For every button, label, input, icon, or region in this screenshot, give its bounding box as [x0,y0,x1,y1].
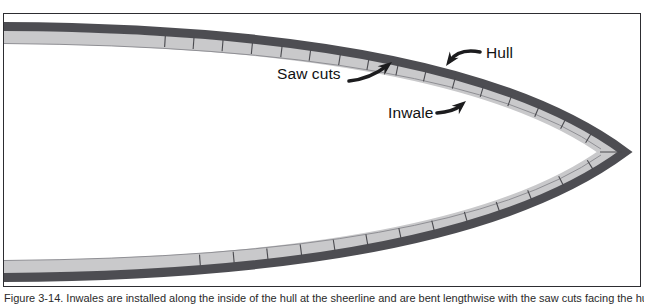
saw-cuts-label: Saw cuts [277,66,341,82]
inwale-callout-arrow-head [452,97,470,114]
figure-caption: Figure 3-14. Inwales are installed along… [4,292,644,305]
hull-label: Hull [486,45,513,61]
boat-bow-diagram [4,14,640,286]
inwale-label: Inwale [388,105,433,121]
diagram-frame [3,13,641,287]
saw-cut-tick [165,36,166,47]
